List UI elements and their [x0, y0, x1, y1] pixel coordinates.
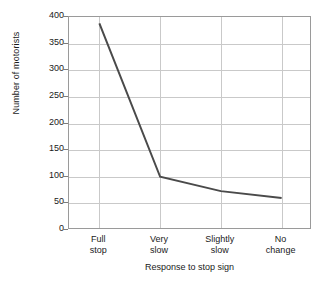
x-axis-tick-label: Nochange [244, 234, 318, 255]
y-axis-tick-label: 200 [38, 118, 64, 127]
x-axis-title: Response to stop sign [68, 262, 311, 272]
y-axis-tick-label: 400 [38, 11, 64, 20]
y-axis-tick-labels: 050100150200250300350400 [36, 0, 64, 281]
line-chart: Number of motorists 05010015020025030035… [0, 0, 324, 281]
y-axis-tick-label: 350 [38, 38, 64, 47]
y-axis-tick-label: 100 [38, 171, 64, 180]
data-series-line [69, 17, 312, 230]
series-polyline [99, 23, 281, 198]
y-axis-tick-label: 250 [38, 91, 64, 100]
y-axis-tick-label: 50 [38, 197, 64, 206]
y-axis-tick-label: 0 [38, 224, 64, 233]
y-axis-tick-label: 300 [38, 64, 64, 73]
plot-area [68, 16, 311, 229]
y-axis-tick-mark [63, 229, 68, 230]
x-axis-tick-label-line: No [244, 234, 318, 245]
x-axis-tick-label-line: change [244, 245, 318, 256]
y-axis-title: Number of motorists [11, 13, 21, 133]
y-axis-tick-label: 150 [38, 144, 64, 153]
